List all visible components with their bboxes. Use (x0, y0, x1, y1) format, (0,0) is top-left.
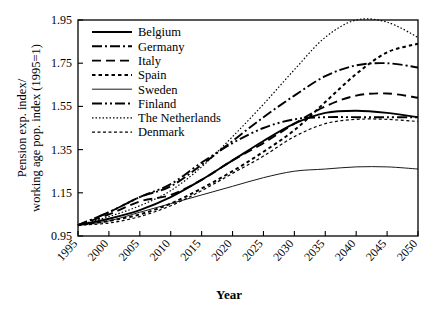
legend-label-sweden: Sweden (138, 83, 178, 97)
legend-label-germany: Germany (138, 40, 185, 54)
y-tick-label: 1.55 (51, 99, 72, 113)
y-tick-label: 0.95 (51, 229, 72, 243)
y-tick-label: 1.75 (51, 56, 72, 70)
x-axis-title: Year (216, 287, 242, 302)
chart-background (0, 0, 435, 315)
y-axis-title-line1: Pension exp. index/ (15, 78, 29, 177)
line-chart: 1995200020052010201520202025203020352040… (0, 0, 435, 315)
y-axis-title-line2: working age pop. index (1995=1) (29, 44, 43, 212)
legend-label-belgium: Belgium (138, 25, 181, 39)
legend-label-finland: Finland (138, 97, 177, 111)
legend-label-spain: Spain (138, 68, 167, 82)
y-tick-label: 1.95 (51, 13, 72, 27)
chart-figure: 1995200020052010201520202025203020352040… (0, 0, 435, 315)
legend-label-denmark: Denmark (138, 125, 185, 139)
legend-label-the-netherlands: The Netherlands (138, 111, 221, 125)
y-tick-label: 1.35 (51, 143, 72, 157)
legend-label-italy: Italy (138, 54, 162, 68)
y-tick-label: 1.15 (51, 186, 72, 200)
